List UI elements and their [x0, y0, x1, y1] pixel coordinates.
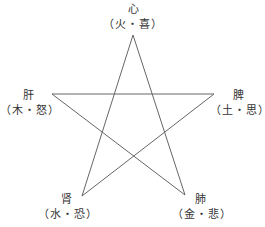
node-lung: 肺 （金・悲）: [172, 192, 228, 222]
element-emotion-label: （金・悲）: [172, 207, 228, 222]
element-emotion-label: （土・思）: [210, 103, 265, 118]
node-liver: 肝 （木・怒）: [0, 88, 56, 118]
organ-label: 脾: [210, 88, 265, 103]
node-kidney: 肾 （水・恐）: [38, 192, 94, 222]
element-emotion-label: （火・喜）: [103, 17, 163, 32]
organ-label: 肝: [0, 88, 56, 103]
element-emotion-label: （水・恐）: [38, 207, 94, 222]
organ-label: 心: [103, 2, 163, 17]
organ-label: 肺: [172, 192, 228, 207]
node-spleen: 脾 （土・思）: [210, 88, 265, 118]
node-heart: 心 （火・喜）: [103, 2, 163, 32]
star-outline: [52, 35, 214, 196]
organ-label: 肾: [38, 192, 94, 207]
element-emotion-label: （木・怒）: [0, 103, 56, 118]
